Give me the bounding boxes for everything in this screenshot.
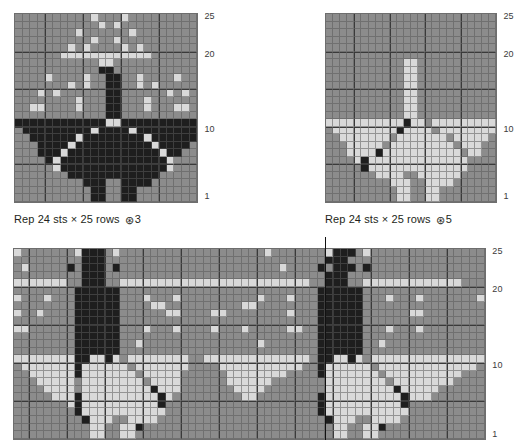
chart-cell (454, 371, 462, 379)
chart-cell (379, 257, 387, 265)
chart-cell (272, 386, 280, 394)
chart-cell (136, 424, 144, 432)
chart-cell (326, 67, 333, 75)
chart-cell (204, 424, 212, 432)
chart-cell (432, 416, 440, 424)
chart-cell (106, 119, 114, 127)
chart-cell (98, 378, 106, 386)
chart-cell (394, 401, 402, 409)
chart-cell (379, 249, 387, 257)
chart-cell (76, 142, 84, 150)
chart-cell (90, 272, 98, 280)
chart-cell (348, 378, 356, 386)
chart-cell (90, 340, 98, 348)
chart-cell (394, 264, 402, 272)
chart-cell (38, 149, 46, 157)
chart-cell (30, 14, 38, 22)
chart-cell (242, 249, 250, 257)
chart-cell (386, 325, 394, 333)
chart-cell (113, 424, 121, 432)
chart-cell (242, 310, 250, 318)
chart-cell (15, 14, 23, 22)
chart-cell (333, 52, 340, 60)
chart-cell (211, 264, 219, 272)
chart-cell (447, 194, 454, 202)
chart-cell (249, 302, 257, 310)
chart-cell (280, 431, 288, 439)
chart-cell (22, 378, 30, 386)
chart-cell (425, 59, 432, 67)
chart-cell (462, 355, 470, 363)
chart-2-grid[interactable] (325, 13, 497, 203)
chart-cell (424, 340, 432, 348)
chart-cell (29, 287, 37, 295)
chart-cell (461, 97, 468, 105)
chart-cell (409, 393, 417, 401)
chart-cell (354, 89, 361, 97)
chart-cell (461, 37, 468, 45)
chart-1-grid[interactable] (14, 13, 198, 203)
chart-cell (401, 287, 409, 295)
chart-cell (38, 127, 46, 135)
chart-cell (482, 104, 489, 112)
chart-cell (363, 272, 371, 280)
chart-cell (447, 272, 455, 280)
chart-cell (105, 333, 113, 341)
chart-cell (447, 302, 455, 310)
chart-cell (454, 44, 461, 52)
chart-cell (272, 371, 280, 379)
chart-cell (83, 142, 91, 150)
chart-cell (82, 416, 90, 424)
chart-cell (371, 295, 379, 303)
chart-cell (38, 14, 46, 22)
chart-cell (53, 82, 61, 90)
chart-cell (76, 157, 84, 165)
chart-cell (76, 149, 84, 157)
chart-cell (45, 74, 53, 82)
chart-cell (379, 295, 387, 303)
chart-cell (120, 348, 128, 356)
chart-cell (114, 194, 122, 202)
chart-cell (489, 59, 496, 67)
chart-cell (432, 355, 440, 363)
chart-cell (98, 340, 106, 348)
chart-cell (23, 172, 31, 180)
chart-cell (280, 310, 288, 318)
chart-cell (52, 378, 60, 386)
chart-cell (440, 142, 447, 150)
chart-cell (60, 264, 68, 272)
chart-cell (287, 295, 295, 303)
chart-cell (376, 119, 383, 127)
chart-cell (167, 119, 175, 127)
chart-cell (369, 142, 376, 150)
chart-cell (120, 378, 128, 386)
chart-cell (173, 348, 181, 356)
chart-cell (67, 386, 75, 394)
chart-cell (424, 348, 432, 356)
chart-cell (75, 363, 83, 371)
chart-cell (416, 295, 424, 303)
chart-cell (68, 112, 76, 120)
chart-cell (90, 333, 98, 341)
chart-cell (53, 194, 61, 202)
chart-cell (166, 371, 174, 379)
chart-3-grid[interactable] (13, 248, 486, 440)
chart-cell (151, 401, 159, 409)
chart-cell (114, 37, 122, 45)
chart-cell (152, 127, 160, 135)
chart-cell (454, 127, 461, 135)
chart-cell (425, 44, 432, 52)
chart-cell (416, 257, 424, 265)
chart-cell (60, 287, 68, 295)
chart-cell (390, 89, 397, 97)
chart-cell (204, 378, 212, 386)
chart-cell (37, 386, 45, 394)
chart-cell (120, 393, 128, 401)
chart-cell (82, 424, 90, 432)
chart-cell (190, 134, 198, 142)
chart-cell (347, 172, 354, 180)
chart-cell (52, 424, 60, 432)
chart-cell (468, 104, 475, 112)
chart-cell (287, 257, 295, 265)
chart-cell (257, 408, 265, 416)
